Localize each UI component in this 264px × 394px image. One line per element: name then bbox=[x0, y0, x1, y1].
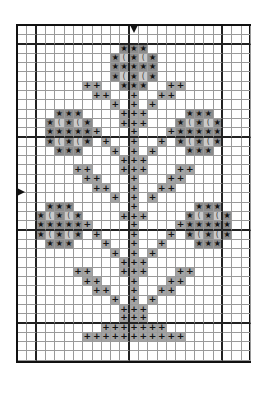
stitch-star: ★ bbox=[195, 240, 204, 249]
stitch-cell bbox=[242, 342, 251, 351]
stitch-star: ★ bbox=[46, 203, 55, 212]
stitch-cell bbox=[37, 156, 46, 165]
stitch-plus: + bbox=[130, 184, 139, 193]
stitch-cell bbox=[83, 231, 92, 240]
stitch-cell bbox=[102, 296, 111, 305]
stitch-cell bbox=[102, 82, 111, 91]
stitch-cell bbox=[46, 54, 55, 63]
stitch-cell bbox=[223, 138, 232, 147]
stitch-cell bbox=[186, 54, 195, 63]
stitch-cell bbox=[242, 165, 251, 174]
stitch-cell bbox=[204, 193, 213, 202]
stitch-cell bbox=[74, 305, 83, 314]
stitch-cell bbox=[148, 203, 157, 212]
stitch-cell bbox=[102, 175, 111, 184]
stitch-cell bbox=[93, 351, 102, 360]
stitch-cell bbox=[111, 203, 120, 212]
stitch-cell bbox=[27, 91, 36, 100]
stitch-cell bbox=[176, 249, 185, 258]
stitch-cell bbox=[74, 314, 83, 323]
stitch-cell bbox=[176, 45, 185, 54]
stitch-plus: + bbox=[120, 110, 129, 119]
stitch-cell bbox=[74, 35, 83, 44]
stitch-cell bbox=[111, 314, 120, 323]
stitch-star: ★ bbox=[55, 212, 64, 221]
stitch-cell bbox=[232, 240, 241, 249]
stitch-cell bbox=[176, 193, 185, 202]
stitch-plus: + bbox=[130, 296, 139, 305]
stitch-cell bbox=[55, 184, 64, 193]
stitch-cell bbox=[83, 156, 92, 165]
stitch-cell bbox=[242, 45, 251, 54]
stitch-star: ★ bbox=[74, 110, 83, 119]
stitch-cell bbox=[111, 26, 120, 35]
stitch-cell bbox=[139, 175, 148, 184]
stitch-star: ★ bbox=[55, 240, 64, 249]
stitch-cell bbox=[65, 175, 74, 184]
stitch-cell bbox=[242, 156, 251, 165]
stitch-cell bbox=[195, 72, 204, 81]
stitch-cell bbox=[111, 258, 120, 267]
stitch-star: ★ bbox=[55, 221, 64, 230]
stitch-cell bbox=[167, 63, 176, 72]
stitch-cell bbox=[242, 119, 251, 128]
stitch-plus: + bbox=[176, 333, 185, 342]
stitch-cell bbox=[65, 91, 74, 100]
stitch-cell bbox=[65, 324, 74, 333]
stitch-star: ★ bbox=[65, 110, 74, 119]
stitch-cell bbox=[83, 258, 92, 267]
stitch-cell bbox=[18, 314, 27, 323]
stitch-cell bbox=[120, 128, 129, 137]
stitch-star: ★ bbox=[204, 221, 213, 230]
stitch-cell bbox=[242, 26, 251, 35]
stitch-star: ★ bbox=[195, 138, 204, 147]
stitch-cell bbox=[93, 249, 102, 258]
stitch-cell bbox=[37, 82, 46, 91]
stitch-cell bbox=[158, 193, 167, 202]
stitch-cell bbox=[37, 72, 46, 81]
stitch-cell bbox=[83, 72, 92, 81]
stitch-cell bbox=[176, 286, 185, 295]
stitch-moon: ( bbox=[65, 231, 74, 240]
stitch-cell bbox=[242, 305, 251, 314]
stitch-plus: + bbox=[93, 277, 102, 286]
stitch-plus: + bbox=[130, 193, 139, 202]
stitch-cell bbox=[102, 212, 111, 221]
stitch-cell bbox=[74, 26, 83, 35]
stitch-cell bbox=[186, 258, 195, 267]
stitch-cell bbox=[111, 45, 120, 54]
stitch-cell bbox=[55, 314, 64, 323]
stitch-star: ★ bbox=[186, 221, 195, 230]
stitch-cell bbox=[214, 258, 223, 267]
stitch-star: ★ bbox=[111, 63, 120, 72]
stitch-cell bbox=[102, 119, 111, 128]
stitch-moon: ( bbox=[46, 231, 55, 240]
stitch-cell bbox=[102, 26, 111, 35]
center-row-marker-icon bbox=[17, 188, 25, 196]
stitch-cell bbox=[37, 286, 46, 295]
stitch-cell bbox=[186, 175, 195, 184]
stitch-cell bbox=[186, 249, 195, 258]
stitch-cell bbox=[232, 342, 241, 351]
stitch-cell bbox=[83, 100, 92, 109]
stitch-plus: + bbox=[158, 240, 167, 249]
stitch-cell bbox=[120, 91, 129, 100]
stitch-star: ★ bbox=[55, 203, 64, 212]
stitch-cell bbox=[74, 91, 83, 100]
stitch-cell bbox=[120, 203, 129, 212]
stitch-cell bbox=[18, 324, 27, 333]
stitch-cell bbox=[27, 221, 36, 230]
stitch-cell bbox=[195, 268, 204, 277]
stitch-cell bbox=[176, 314, 185, 323]
stitch-cell bbox=[223, 277, 232, 286]
stitch-cell bbox=[139, 35, 148, 44]
stitch-moon: ( bbox=[214, 231, 223, 240]
stitch-cell bbox=[214, 45, 223, 54]
stitch-cell bbox=[111, 128, 120, 137]
stitch-cell bbox=[214, 184, 223, 193]
stitch-plus: + bbox=[130, 119, 139, 128]
stitch-star: ★ bbox=[55, 147, 64, 156]
stitch-cell bbox=[204, 342, 213, 351]
stitch-cell bbox=[223, 305, 232, 314]
stitch-cell bbox=[102, 193, 111, 202]
